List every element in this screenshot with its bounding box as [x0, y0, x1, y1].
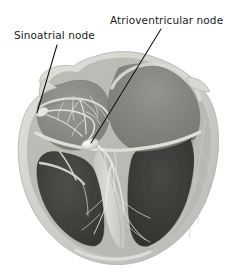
atrioventricular-node-label: Atrioventricular node — [110, 14, 223, 26]
sinoatrial-node-label: Sinoatrial node — [14, 29, 95, 41]
heart-conduction-figure: Sinoatrial node Atrioventricular node — [0, 0, 232, 273]
heart-diagram-svg: Sinoatrial node Atrioventricular node — [0, 0, 232, 273]
